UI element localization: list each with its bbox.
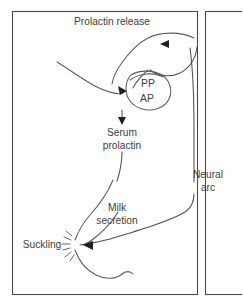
prolactin-reflex-diagram: Prolactin release PP AP Serum prolactin … xyxy=(0,0,242,306)
neural-arc-label-line2: arc xyxy=(201,182,215,193)
neural-arc-label-line1: Neural xyxy=(193,169,223,180)
adjacent-panel-frame xyxy=(206,12,243,295)
serum-prolactin-label-line1: Serum xyxy=(107,127,137,138)
serum-prolactin-label-line2: prolactin xyxy=(103,140,142,151)
main-panel-frame xyxy=(13,12,198,295)
suckling-label: Suckling xyxy=(23,239,62,250)
milk-secretion-label-line1: Milk xyxy=(108,202,127,213)
anterior-pituitary-label: AP xyxy=(140,93,154,104)
milk-secretion-label-line2: secretion xyxy=(96,215,137,226)
figure-container: Prolactin release PP AP Serum prolactin … xyxy=(0,0,242,306)
posterior-pituitary-label: PP xyxy=(141,78,155,89)
title-label: Prolactin release xyxy=(74,16,150,27)
